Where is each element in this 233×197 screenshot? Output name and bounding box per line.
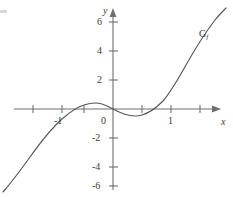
y-tick-label-6: 6 [97, 17, 102, 27]
y-tick-label-4: 4 [97, 46, 102, 56]
x-tick-label-1: 1 [168, 116, 173, 126]
y-tick-label-2: 2 [97, 75, 102, 85]
y-axis [109, 8, 118, 190]
y-tick-label-minus4: -4 [92, 162, 100, 172]
y-tick-label-minus6: -6 [92, 181, 100, 191]
curve-label-subscript: f [206, 33, 208, 41]
function-graph-figure: 6 4 2 0 -2 -4 -6 -1 1 y x Gf [0, 0, 233, 197]
x-axis-label: x [221, 117, 225, 127]
curve-label: Gf [199, 29, 208, 41]
function-curve [3, 8, 226, 192]
x-tick-label-minus1: -1 [54, 116, 62, 126]
y-axis-label: y [103, 6, 107, 16]
y-tick-label-0: 0 [101, 116, 106, 126]
y-tick-label-minus2: -2 [92, 133, 100, 143]
